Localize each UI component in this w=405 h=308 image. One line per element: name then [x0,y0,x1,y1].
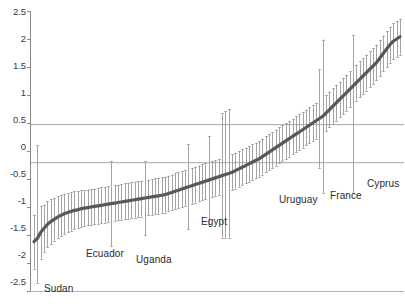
point-label-egypt: Egypt [201,216,227,227]
error-bars [33,19,402,284]
point-label-sudan: Sudan [44,283,73,294]
reference-lines [30,125,404,163]
point-label-cyprus: Cyprus [367,178,399,189]
point-label-ecuador: Ecuador [86,248,124,259]
point-label-france: France [330,190,362,201]
point-label-uganda: Uganda [136,254,172,265]
chart-container: 2.5 2 1.5 1 0.5 0 -0.5 -1 -1.5 -2 -2.5 S… [0,0,405,308]
plot-area [0,0,405,308]
point-label-uruguay: Uruguay [279,194,318,205]
y-axis-tick-marks [27,12,31,292]
